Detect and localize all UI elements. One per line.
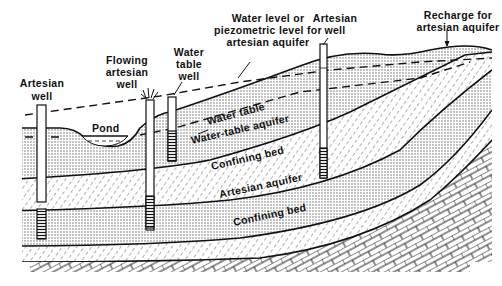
label-water-table-well-3: well bbox=[177, 70, 199, 82]
label-recharge-1: Recharge for bbox=[424, 9, 492, 21]
label-piezometric-3: artesian aquifer bbox=[227, 36, 310, 48]
aquifer-diagram: Artesian well Flowing artesian well Wate… bbox=[0, 0, 502, 286]
label-artesian-well-left-1: Artesian bbox=[20, 77, 64, 89]
well-artesian-left bbox=[37, 105, 46, 239]
label-pond: Pond bbox=[92, 122, 119, 134]
label-piezometric-1: Water level or bbox=[232, 12, 305, 24]
label-piezometric-2: piezometric level for bbox=[214, 24, 322, 36]
label-flowing-well-1: Flowing bbox=[106, 54, 148, 66]
well-water-table bbox=[168, 97, 176, 161]
bedrock-lower bbox=[30, 262, 470, 272]
label-flowing-well-3: well bbox=[115, 78, 137, 90]
label-recharge-2: artesian aquifer bbox=[417, 21, 500, 33]
flowing-water-icon bbox=[141, 88, 158, 99]
label-artesian-well-left-2: well bbox=[30, 90, 52, 102]
label-water-table-well-2: table bbox=[176, 58, 202, 70]
label-artesian-well-right-1: Artesian bbox=[313, 12, 357, 24]
label-artesian-well-right-2: well bbox=[323, 24, 345, 36]
label-water-table-well-1: Water bbox=[174, 46, 204, 58]
well-artesian-right bbox=[320, 44, 327, 178]
label-flowing-well-2: artesian bbox=[106, 66, 149, 78]
